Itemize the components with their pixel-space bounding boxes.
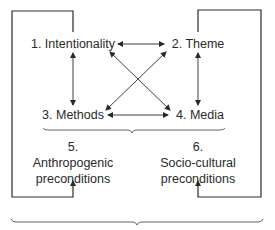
node-5-line1: Anthropogenic xyxy=(23,155,123,171)
node-6-line1: Socio-cultural xyxy=(148,155,248,171)
node-theme: 2. Theme xyxy=(168,36,228,52)
node-methods: 3. Methods xyxy=(38,107,108,123)
node-6-number: 6. xyxy=(148,139,248,155)
arrow-2-3 xyxy=(106,52,166,110)
arrow-1-4 xyxy=(110,52,170,110)
node-intentionality: 1. Intentionality xyxy=(23,36,123,52)
node-5-line2: preconditions xyxy=(23,171,123,187)
upper-brace xyxy=(43,128,225,133)
node-media: 4. Media xyxy=(170,107,230,123)
node-6-line2: preconditions xyxy=(148,171,248,187)
node-5-number: 5. xyxy=(23,139,123,155)
lower-brace xyxy=(11,219,263,225)
